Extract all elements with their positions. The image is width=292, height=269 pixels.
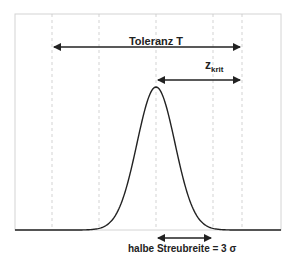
tolerance-label: Toleranz T: [0, 35, 292, 47]
zkrit-label: zkrit: [205, 58, 223, 74]
zkrit-subscript: krit: [211, 65, 223, 74]
spread-label: halbe Streubreite = 3 σ: [128, 243, 236, 254]
bell-curve: [15, 87, 281, 230]
